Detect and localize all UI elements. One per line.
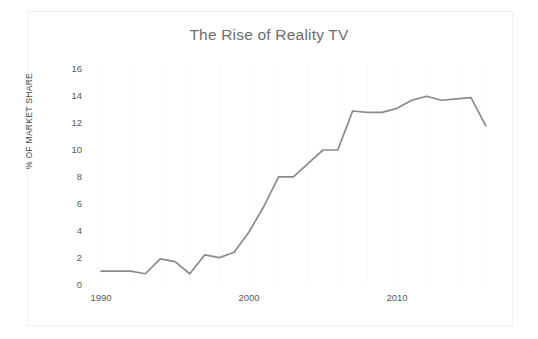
x-tick-label-2010: 2010 <box>367 292 427 303</box>
line-chart-svg <box>0 0 538 339</box>
vertical-gridlines <box>101 62 486 286</box>
data-series-line <box>101 96 486 274</box>
plot-area <box>0 0 538 339</box>
x-tick-label-2000: 2000 <box>219 292 279 303</box>
chart-figure: The Rise of Reality TV % OF MARKET SHARE… <box>0 0 538 339</box>
x-tick-label-1990: 1990 <box>71 292 131 303</box>
